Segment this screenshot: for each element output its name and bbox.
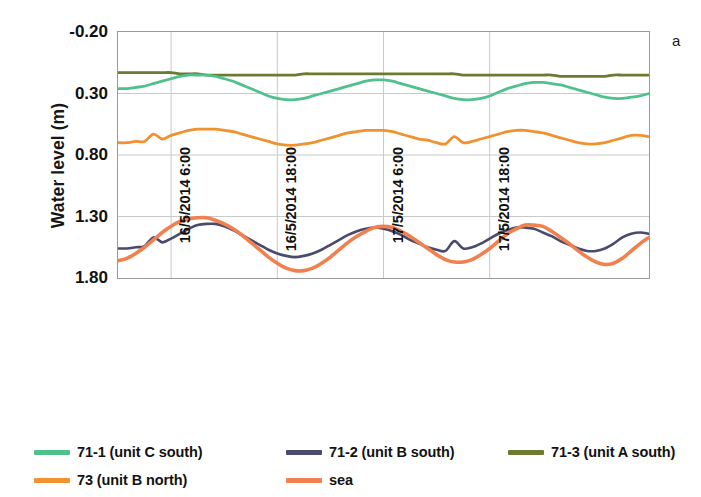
y-tick-label: 1.80 <box>46 268 108 288</box>
chart-svg <box>118 32 649 278</box>
y-tick-label: 0.80 <box>46 145 108 165</box>
legend-item[interactable]: 71-2 (unit B south) <box>286 444 454 460</box>
legend-color-swatch <box>34 478 70 483</box>
x-tick-label: 16/5/2014 6:00 <box>177 147 193 287</box>
legend-label: 71-3 (unit A south) <box>551 444 675 460</box>
legend-item[interactable]: 71-1 (unit C south) <box>34 444 202 460</box>
y-tick-label: -0.20 <box>46 22 108 42</box>
x-tick-label: 17/5/2014 18:00 <box>496 147 512 287</box>
legend-label: 71-1 (unit C south) <box>77 444 202 460</box>
legend-label: sea <box>329 472 353 488</box>
legend-label: 73 (unit B north) <box>77 472 187 488</box>
legend-color-swatch <box>286 478 322 483</box>
legend-color-swatch <box>34 450 70 455</box>
chart-figure: Water level (m) 1.801.300.800.30-0.20 16… <box>0 0 701 497</box>
plot-area <box>117 31 650 279</box>
x-tick-label: 17/5/2014 6:00 <box>390 147 406 287</box>
legend-color-swatch <box>286 450 322 455</box>
chart-legend: 71-1 (unit C south)71-2 (unit B south)71… <box>34 440 694 496</box>
legend-color-swatch <box>508 450 544 455</box>
panel-label: a <box>672 32 680 49</box>
legend-label: 71-2 (unit B south) <box>329 444 454 460</box>
legend-item[interactable]: 73 (unit B north) <box>34 472 187 488</box>
legend-item[interactable]: sea <box>286 472 353 488</box>
x-tick-label: 16/5/2014 18:00 <box>283 147 299 287</box>
y-tick-label: 0.30 <box>46 84 108 104</box>
y-axis-tick-labels: 1.801.300.800.30-0.20 <box>46 0 108 497</box>
legend-item[interactable]: 71-3 (unit A south) <box>508 444 675 460</box>
y-tick-label: 1.30 <box>46 207 108 227</box>
